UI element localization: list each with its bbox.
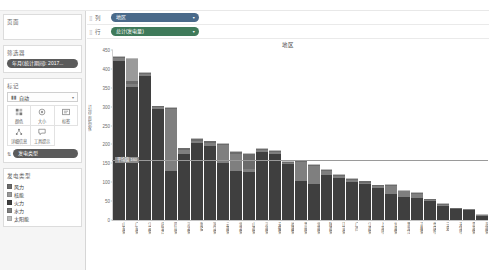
bar-segment[interactable]	[359, 184, 371, 220]
bar-column[interactable]	[217, 50, 229, 220]
bar-segment[interactable]	[243, 172, 255, 220]
bar-segment[interactable]	[295, 181, 307, 220]
bar-segment[interactable]	[385, 194, 397, 220]
tableau-workbook-window: 页面 筛选器 年月(统计期间): 2017... 标记 ▮▮ 自动 ▾ 颜色	[0, 0, 489, 270]
bar-column[interactable]	[230, 50, 242, 220]
filter-pill-date[interactable]: 年月(统计期间): 2017...	[7, 59, 78, 68]
bar-segment[interactable]	[411, 198, 423, 220]
marks-type-dropdown[interactable]: ▮▮ 自动 ▾	[7, 92, 78, 102]
bar-column[interactable]	[139, 50, 151, 220]
bar-column[interactable]	[256, 50, 268, 220]
bar-segment[interactable]	[126, 59, 138, 82]
marks-encoding-pill-power-type[interactable]: 发电类型	[13, 149, 78, 158]
legend-item-label: 火力	[14, 199, 24, 206]
bar-column[interactable]	[411, 50, 423, 220]
bar-segment[interactable]	[398, 197, 410, 220]
bar-column[interactable]	[321, 50, 333, 220]
bar-segment[interactable]	[230, 154, 242, 171]
legend-item[interactable]: 太阳能	[7, 214, 78, 222]
bar-segment[interactable]	[126, 87, 138, 220]
bar-column[interactable]	[359, 50, 371, 220]
bar-column[interactable]	[308, 50, 320, 220]
bar-segment[interactable]	[476, 216, 488, 220]
legend-item[interactable]: 水力	[7, 206, 78, 214]
legend-item[interactable]: 风力	[7, 182, 78, 190]
legend-item[interactable]: 核能	[7, 190, 78, 198]
bar-segment[interactable]	[230, 171, 242, 220]
bar-column[interactable]	[437, 50, 449, 220]
chart-title: 地区	[87, 40, 489, 50]
bar-segment[interactable]	[308, 184, 320, 220]
bar-column[interactable]	[113, 50, 125, 220]
bar-column[interactable]	[243, 50, 255, 220]
bar-segment[interactable]	[256, 152, 268, 220]
bar-column[interactable]	[476, 50, 488, 220]
bar-segment[interactable]	[178, 154, 190, 220]
bar-column[interactable]	[191, 50, 203, 220]
bar-segment[interactable]	[139, 76, 151, 220]
bar-column[interactable]	[346, 50, 358, 220]
bar-chart-icon: ▮▮	[11, 94, 17, 100]
chevron-down-icon: ▾	[193, 27, 195, 36]
bar-segment[interactable]	[152, 109, 164, 220]
marks-button-detail[interactable]: 详细信息	[8, 126, 31, 146]
bar-segment[interactable]	[191, 143, 203, 220]
bar-column[interactable]	[333, 50, 345, 220]
x-axis-labels: 山东省广东省江苏省内蒙古四川省河北省新疆浙江省云南省湖北省山西省河南省安徽省福建…	[113, 222, 488, 270]
bar-column[interactable]	[424, 50, 436, 220]
bar-column[interactable]	[398, 50, 410, 220]
bar-segment[interactable]	[217, 163, 229, 220]
bar-segment[interactable]	[217, 145, 229, 163]
filters-title: 筛选器	[7, 49, 78, 57]
bar-segment[interactable]	[165, 171, 177, 220]
bar-column[interactable]	[372, 50, 384, 220]
rows-shelf[interactable]: ⣿ 行 总计(发电量) ▾	[87, 25, 489, 39]
legend-item[interactable]: 火力	[7, 198, 78, 206]
bar-segment[interactable]	[308, 166, 320, 184]
bar-column[interactable]	[295, 50, 307, 220]
columns-shelf[interactable]: ⣿ 列 地区 ▾	[87, 11, 489, 25]
x-axis-tick-label: 福建省	[282, 222, 294, 270]
bar-segment[interactable]	[346, 182, 358, 220]
bar-segment[interactable]	[385, 186, 397, 194]
bar-series-container	[113, 50, 488, 220]
bar-segment[interactable]	[424, 201, 436, 220]
marks-button-tooltip[interactable]: 工具提示	[31, 126, 54, 146]
bar-segment[interactable]	[372, 188, 384, 220]
bar-column[interactable]	[204, 50, 216, 220]
bar-column[interactable]	[450, 50, 462, 220]
y-axis-tick-label: 100	[102, 180, 110, 185]
bar-column[interactable]	[152, 50, 164, 220]
bar-segment[interactable]	[113, 61, 125, 220]
marks-button-size[interactable]: 大小	[31, 106, 54, 126]
x-axis-tick-label: 吉林省	[411, 222, 423, 270]
bar-segment[interactable]	[204, 146, 216, 220]
bar-segment[interactable]	[450, 209, 462, 220]
reference-line-label: 平均值 160	[115, 157, 139, 163]
bar-segment[interactable]	[243, 154, 255, 169]
x-axis-tick-label: 云南省	[217, 222, 229, 270]
bar-segment[interactable]	[282, 164, 294, 220]
bar-segment[interactable]	[333, 178, 345, 220]
marks-button-label[interactable]: 标签	[55, 106, 78, 126]
bar-column[interactable]	[282, 50, 294, 220]
marks-button-detail-label: 详细信息	[11, 138, 27, 144]
bar-segment[interactable]	[295, 162, 307, 181]
bar-column[interactable]	[126, 50, 138, 220]
bar-segment[interactable]	[437, 206, 449, 220]
pill-total-generation[interactable]: 总计(发电量) ▾	[111, 27, 199, 36]
marks-button-color[interactable]: 颜色	[8, 106, 31, 126]
bar-column[interactable]	[269, 50, 281, 220]
bar-column[interactable]	[178, 50, 190, 220]
bar-segment[interactable]	[463, 210, 475, 220]
bar-segment[interactable]	[321, 175, 333, 220]
bar-column[interactable]	[165, 50, 177, 220]
bar-column[interactable]	[385, 50, 397, 220]
bar-column[interactable]	[463, 50, 475, 220]
bar-segment[interactable]	[165, 109, 177, 171]
pill-region[interactable]: 地区 ▾	[111, 13, 199, 22]
legend-item-label: 水力	[14, 207, 24, 214]
marks-title: 标记	[7, 82, 78, 90]
bar-segment[interactable]	[269, 154, 281, 220]
x-axis-line	[112, 220, 488, 221]
